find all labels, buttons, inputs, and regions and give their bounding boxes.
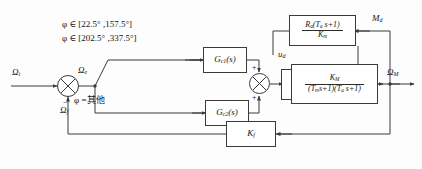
disturbance-voltage-subscript: d [283, 53, 286, 59]
controller-1-block[interactable]: Gc1(s) [203, 47, 247, 73]
armature-impedance-block[interactable]: Ra(Ta s+1) Km [289, 15, 356, 46]
armature-num-t: (T [313, 20, 320, 29]
wire-kf-to-feedback-bus [68, 130, 226, 134]
controller-2-arg: (s) [228, 107, 238, 117]
error-summing-junction [57, 75, 79, 97]
kf-subscript: f [253, 133, 255, 139]
motor-den-p2: s+1)(T [319, 84, 341, 93]
motor-num-k-sub: M [335, 77, 339, 83]
disturbance-voltage-label: ud [278, 50, 285, 60]
armature-den-k-sub: m [323, 33, 327, 39]
motor-fraction: KM (Tms+1)(Ta s+1) [305, 74, 364, 93]
load-torque-subscript: d [380, 17, 383, 23]
motor-transfer-block[interactable]: KM (Tms+1)(Ta s+1) [291, 64, 378, 104]
speed-feedback-gain-block[interactable]: Kf [226, 121, 276, 147]
controller-1-label: Gc1(s) [214, 55, 236, 65]
input-reference-label: Ωi [12, 68, 20, 78]
controller-summing-junction [249, 73, 270, 94]
motor-denominator: (Tms+1)(Ta s+1) [305, 85, 364, 94]
phase-other-label: φ =其他 [74, 96, 105, 106]
error-sum-minus-sign: − [63, 99, 68, 107]
motor-den-p3: s+1) [344, 84, 361, 93]
error-signal-label: Ωe [78, 66, 87, 76]
armature-fraction: Ra(Ta s+1) Km [302, 21, 342, 40]
feedback-signal-subscript: f [67, 109, 69, 115]
error-signal-subscript: e [85, 69, 88, 75]
output-speed-label: ΩM [387, 68, 398, 78]
phase-range-2-label: φ ∈ [202.5° ,337.5°] [62, 34, 137, 44]
controller-1-arg: (s) [226, 54, 236, 64]
kf-label: Kf [247, 129, 255, 139]
armature-num-tail: s+1) [323, 20, 340, 29]
output-speed-subscript: M [394, 71, 399, 77]
feedback-signal-label: Ωf [60, 106, 68, 116]
armature-denominator: Km [302, 31, 342, 40]
controller-sum-top-sign: + [252, 64, 257, 72]
controller-sum-bottom-sign: + [252, 94, 257, 102]
load-torque-label: Md [372, 14, 382, 24]
controller-2-label: Gc2(s) [216, 108, 238, 118]
input-reference-subscript: i [19, 71, 21, 77]
load-torque-symbol: M [372, 13, 380, 23]
phase-range-1-label: φ ∈ [22.5° ,157.5°] [62, 20, 132, 30]
control-block-diagram: φ ∈ [22.5° ,157.5°] φ ∈ [202.5° ,337.5°]… [0, 0, 422, 169]
